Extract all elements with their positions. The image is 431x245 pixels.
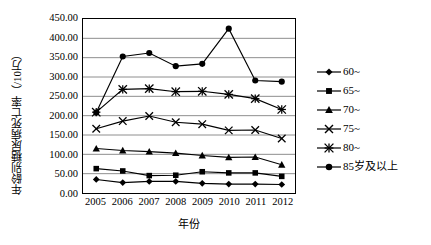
x-axis-tick: 2009 xyxy=(192,197,213,208)
data-point-square xyxy=(146,173,152,179)
data-point-square xyxy=(279,174,285,180)
series-6 xyxy=(93,26,285,116)
diabetes-mortality-line-chart: 年龄别糖尿病死亡率（/10万） 450.00400.00350.00300.00… xyxy=(0,0,431,245)
x-axis-tick: 2011 xyxy=(246,197,267,208)
data-point-diamond xyxy=(199,180,206,187)
legend-item-65~[interactable]: 65~ xyxy=(316,81,428,100)
y-axis-tick: 300.00 xyxy=(49,71,78,82)
data-point-square xyxy=(93,166,99,172)
legend-label: 80~ xyxy=(343,142,360,153)
data-point-circle xyxy=(173,63,179,69)
legend-marker-x-icon xyxy=(316,122,342,136)
y-axis-tick: 50.00 xyxy=(54,169,78,180)
x-axis-tick: 2012 xyxy=(272,197,293,208)
y-axis-tick: 450.00 xyxy=(49,13,78,24)
data-point-diamond xyxy=(325,68,332,75)
series-3 xyxy=(93,145,286,168)
y-axis-tick: 350.00 xyxy=(49,52,78,63)
data-point-diamond xyxy=(172,178,179,185)
x-axis-tick: 2007 xyxy=(138,197,159,208)
legend-label: 60~ xyxy=(343,66,360,77)
legend-item-70~[interactable]: 70~ xyxy=(316,100,428,119)
series-4 xyxy=(92,112,285,142)
data-point-x xyxy=(278,135,286,143)
data-point-circle xyxy=(226,26,232,32)
plot-area xyxy=(82,18,296,194)
legend-marker-square-icon xyxy=(316,84,342,98)
data-point-circle xyxy=(252,77,258,83)
data-point-square xyxy=(173,172,179,178)
legend-item-85岁及以上[interactable]: 85岁及以上 xyxy=(316,157,428,176)
data-point-x xyxy=(92,125,100,133)
y-axis-tick: 150.00 xyxy=(49,130,78,141)
legend-item-80~[interactable]: 80~ xyxy=(316,138,428,157)
legend-label: 70~ xyxy=(343,104,360,115)
data-point-circle xyxy=(279,79,285,85)
legend-label: 65~ xyxy=(343,85,360,96)
y-axis-tick: 250.00 xyxy=(49,91,78,102)
data-point-asterisk xyxy=(119,85,127,93)
data-point-diamond xyxy=(119,179,126,186)
data-point-asterisk xyxy=(278,105,286,113)
data-point-circle xyxy=(326,163,333,170)
series-lines xyxy=(92,26,286,188)
y-axis-tick: 100.00 xyxy=(49,150,78,161)
data-point-circle xyxy=(199,61,205,67)
data-point-asterisk xyxy=(225,90,233,98)
legend-marker-asterisk-icon xyxy=(316,141,342,155)
data-point-diamond xyxy=(146,178,153,185)
chart-legend: 60~65~70~75~80~85岁及以上 xyxy=(316,62,428,176)
data-point-asterisk xyxy=(172,88,180,96)
y-axis-title-text: 年龄别糖尿病死亡率（/10万） xyxy=(12,49,23,195)
legend-item-75~[interactable]: 75~ xyxy=(316,119,428,138)
data-point-asterisk xyxy=(325,143,334,152)
data-point-square xyxy=(252,170,258,176)
data-point-asterisk xyxy=(145,84,153,92)
legend-label: 75~ xyxy=(343,123,360,134)
data-point-circle xyxy=(93,110,99,116)
data-point-asterisk xyxy=(251,95,259,103)
gridlines xyxy=(83,38,295,173)
x-axis-tick: 2008 xyxy=(165,197,186,208)
series-5 xyxy=(92,84,286,116)
data-point-square xyxy=(326,88,332,94)
y-axis-title: 年龄别糖尿病死亡率（/10万） xyxy=(4,0,30,245)
data-point-circle xyxy=(120,53,126,59)
x-axis-tick: 2005 xyxy=(85,197,106,208)
data-point-square xyxy=(226,170,232,176)
data-point-diamond xyxy=(225,181,232,188)
x-axis-tick-labels: 20052006200720082009201020112012 xyxy=(82,197,296,213)
data-point-diamond xyxy=(93,176,100,183)
data-point-circle xyxy=(146,50,152,56)
y-axis-tick: 200.00 xyxy=(49,111,78,122)
plot-svg xyxy=(83,19,295,193)
legend-marker-triangle-icon xyxy=(316,103,342,117)
legend-marker-circle-icon xyxy=(316,160,342,174)
x-axis-title: 年份 xyxy=(82,215,296,231)
x-axis-tick: 2006 xyxy=(112,197,133,208)
data-point-square xyxy=(120,168,126,174)
legend-item-60~[interactable]: 60~ xyxy=(316,62,428,81)
data-point-square xyxy=(199,169,205,175)
series-1 xyxy=(93,176,285,188)
legend-label: 85岁及以上 xyxy=(343,161,398,172)
series-2 xyxy=(93,166,284,179)
y-axis-tick: 0.00 xyxy=(60,189,78,200)
x-axis-tick: 2010 xyxy=(219,197,240,208)
y-axis-tick-labels: 450.00400.00350.00300.00250.00200.00150.… xyxy=(28,18,80,194)
y-axis-tick: 400.00 xyxy=(49,32,78,43)
data-point-diamond xyxy=(252,181,259,188)
data-point-diamond xyxy=(278,181,285,188)
data-point-asterisk xyxy=(198,87,206,95)
legend-marker-diamond-icon xyxy=(316,65,342,79)
